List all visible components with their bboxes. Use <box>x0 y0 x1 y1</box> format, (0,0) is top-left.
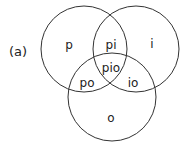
region-po: po <box>80 76 95 90</box>
region-pio: pio <box>102 61 120 75</box>
region-io: io <box>128 76 139 90</box>
venn-diagram: (a) p pi i pio po io o <box>0 0 190 152</box>
region-p: p <box>65 38 73 52</box>
region-i: i <box>150 37 153 51</box>
region-o: o <box>107 111 114 125</box>
figure-label: (a) <box>9 44 27 59</box>
region-pi: pi <box>106 38 117 52</box>
